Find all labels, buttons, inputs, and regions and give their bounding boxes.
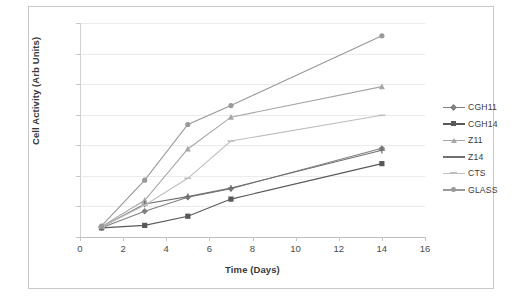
legend-swatch-icon xyxy=(443,152,465,162)
data-point xyxy=(228,185,234,191)
legend-marker-icon xyxy=(450,172,457,174)
series-lines xyxy=(80,23,425,238)
data-point xyxy=(228,103,233,108)
legend-swatch-icon xyxy=(443,168,465,178)
legend-item-cts[interactable]: CTS xyxy=(443,165,521,182)
data-point xyxy=(99,223,104,228)
data-point xyxy=(185,193,191,199)
x-axis-title: Time (Days) xyxy=(80,264,425,275)
chart-legend: CGH11CGH14Z11Z14CTSGLASS xyxy=(443,99,521,198)
plot-area: 0500100015002000250030003500024681012141… xyxy=(80,23,425,237)
legend-label: CTS xyxy=(468,168,486,178)
x-tick-label: 6 xyxy=(189,243,229,254)
series-line-z14 xyxy=(102,150,382,227)
legend-marker-icon xyxy=(450,104,457,111)
x-tick-mark xyxy=(425,237,426,241)
x-tick-label: 10 xyxy=(276,243,316,254)
legend-label: CGH14 xyxy=(468,119,498,129)
data-point xyxy=(228,196,233,201)
data-point xyxy=(142,178,147,183)
x-tick-label: 0 xyxy=(60,243,100,254)
x-tick-label: 8 xyxy=(233,243,273,254)
series-line-cgh14 xyxy=(102,164,382,228)
legend-item-cgh11[interactable]: CGH11 xyxy=(443,99,521,116)
legend-swatch-icon xyxy=(443,119,465,129)
legend-item-z14[interactable]: Z14 xyxy=(443,149,521,166)
x-tick-label: 16 xyxy=(405,243,445,254)
legend-item-z11[interactable]: Z11 xyxy=(443,132,521,149)
x-tick-label: 12 xyxy=(319,243,359,254)
data-point xyxy=(185,214,190,219)
legend-label: GLASS xyxy=(468,185,498,195)
legend-swatch-icon xyxy=(443,135,465,145)
legend-label: Z14 xyxy=(468,152,483,162)
chart-figure: Cell Activity (Arb Units) Time (Days) 05… xyxy=(0,0,524,301)
legend-label: CGH11 xyxy=(468,102,497,112)
data-point xyxy=(185,122,190,127)
legend-marker-icon xyxy=(451,187,456,192)
legend-swatch-icon xyxy=(443,185,465,195)
legend-marker-icon xyxy=(451,156,456,157)
x-tick-label: 4 xyxy=(146,243,186,254)
y-axis-title: Cell Activity (Arb Units) xyxy=(30,37,41,145)
legend-label: Z11 xyxy=(468,135,483,145)
legend-item-glass[interactable]: GLASS xyxy=(443,182,521,199)
data-point xyxy=(185,146,191,152)
series-line-glass xyxy=(102,36,382,226)
x-tick-label: 2 xyxy=(103,243,143,254)
data-point xyxy=(142,223,147,228)
data-point xyxy=(379,33,384,38)
legend-swatch-icon xyxy=(443,102,465,112)
data-point xyxy=(141,208,147,214)
legend-marker-icon xyxy=(451,121,456,126)
legend-item-cgh14[interactable]: CGH14 xyxy=(443,116,521,133)
data-point xyxy=(379,83,385,89)
data-point xyxy=(379,161,384,166)
x-tick-label: 14 xyxy=(362,243,402,254)
legend-marker-icon xyxy=(451,138,457,143)
